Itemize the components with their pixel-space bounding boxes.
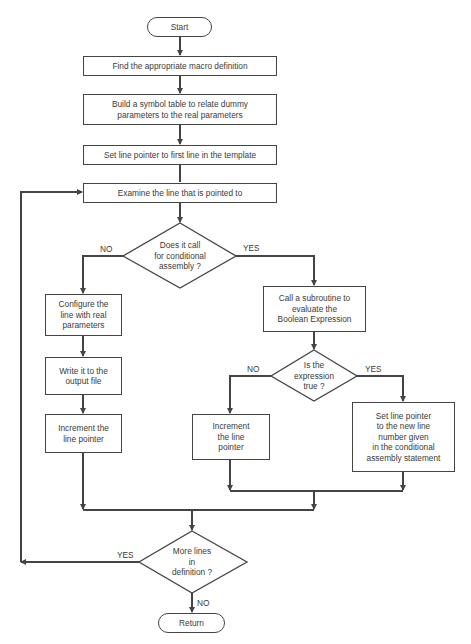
step-configure-line: Configure the line with real parameters	[45, 294, 122, 336]
decision-conditional-text: Does it call for conditional assembly ?	[140, 234, 220, 278]
decision-expression-text: Is the expression true ?	[284, 356, 344, 396]
step-set-line-pointer: Set line pointer to first line in the te…	[83, 145, 277, 165]
label-d2-yes: YES	[365, 364, 382, 374]
return-terminal: Return	[158, 613, 225, 633]
decision-more-lines-text: More lines in definition ?	[155, 541, 229, 583]
label-d2-no: NO	[247, 364, 259, 374]
step-find-macro: Find the appropriate macro definition	[83, 56, 277, 76]
step-build-symbol-table: Build a symbol table to relate dummy par…	[83, 94, 277, 125]
label-d3-no: NO	[197, 598, 209, 608]
label-d3-yes: YES	[117, 550, 134, 560]
start-terminal: Start	[147, 17, 212, 37]
step-set-new-line: Set line pointer to the new line number …	[352, 402, 455, 472]
label-d1-yes: YES	[243, 243, 260, 253]
step-increment-left: Increment the line pointer	[45, 414, 122, 453]
label-d1-no: NO	[100, 244, 112, 254]
step-increment-mid: Increment the line pointer	[192, 414, 270, 460]
step-call-subroutine: Call a subroutine to evaluate the Boolea…	[263, 286, 366, 332]
step-examine-line: Examine the line that is pointed to	[83, 183, 277, 203]
step-write-output: Write it to the output file	[45, 357, 122, 395]
